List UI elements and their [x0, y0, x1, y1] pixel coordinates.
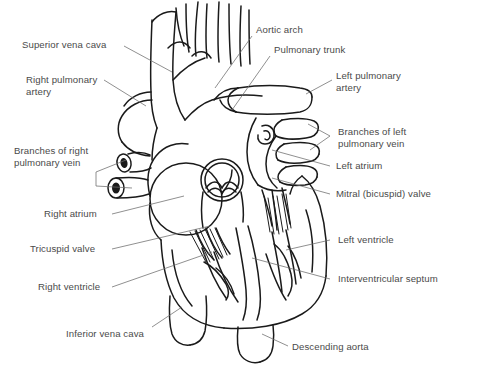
label-branches-left-pulmonary-vein-line1: Branches of left	[338, 126, 406, 137]
interventricular-septum-outline	[236, 226, 260, 320]
leader-left-atrium	[272, 150, 330, 166]
leader-aortic-arch	[215, 36, 252, 88]
descending-aorta-outline	[237, 325, 273, 363]
label-mitral-bicuspid-valve: Mitral (bicuspid) valve	[336, 188, 431, 200]
label-aortic-arch: Aortic arch	[256, 24, 303, 36]
leader-branches-left-pulmonary-vein-lower	[310, 136, 330, 150]
label-superior-vena-cava: Superior vena cava	[22, 39, 106, 51]
leader-mitral-valve	[272, 178, 330, 194]
label-descending-aorta: Descending aorta	[292, 341, 369, 353]
left-atrium-outline	[247, 118, 286, 191]
pulmonary-trunk-outline	[220, 86, 312, 115]
label-tricuspid-valve: Tricuspid valve	[30, 243, 95, 255]
label-left-pulmonary-artery-line1: Left pulmonary	[336, 70, 401, 81]
label-right-pulmonary-artery: Right pulmonaryartery	[26, 74, 97, 97]
leader-right-atrium	[112, 196, 184, 214]
left-ventricle-chamber	[266, 230, 301, 300]
label-right-pulmonary-artery-line1: Right pulmonary	[26, 74, 97, 85]
label-right-atrium: Right atrium	[44, 208, 97, 220]
label-left-ventricle: Left ventricle	[338, 234, 394, 246]
leader-pulmonary-trunk	[232, 56, 270, 110]
label-branches-right-pulmonary-vein-line2: pulmonary vein	[14, 157, 80, 168]
heart-diagram-illustration	[0, 0, 478, 374]
leader-left-ventricle	[286, 240, 330, 250]
label-right-pulmonary-artery-line2: artery	[26, 86, 51, 97]
leader-left-pulmonary-artery	[306, 80, 332, 94]
leader-descending-aorta	[262, 334, 288, 346]
heart-anatomy-figure: Superior vena cava Right pulmonaryartery…	[0, 0, 478, 374]
label-branches-left-pulmonary-vein-line2: pulmonary vein	[338, 138, 404, 149]
label-branches-of-right-pulmonary-vein: Branches of rightpulmonary vein	[14, 145, 88, 168]
figure-caption	[0, 369, 478, 374]
label-left-atrium: Left atrium	[336, 160, 382, 172]
label-right-ventricle: Right ventricle	[38, 281, 100, 293]
leader-lines	[96, 36, 332, 346]
right-pulmonary-vein-stubs	[108, 153, 151, 198]
left-pulmonary-vessel-stubs	[274, 119, 319, 186]
right-pulmonary-artery-outline	[118, 92, 152, 156]
label-pulmonary-trunk: Pulmonary trunk	[274, 44, 345, 56]
label-branches-right-pulmonary-vein-line1: Branches of right	[14, 145, 88, 156]
inferior-vena-cava-outline	[169, 296, 206, 345]
right-atrium-outline	[148, 144, 232, 241]
label-left-pulmonary-artery-line2: artery	[336, 82, 361, 93]
label-inferior-vena-cava: Inferior vena cava	[66, 328, 144, 340]
label-branches-of-left-pulmonary-vein: Branches of leftpulmonary vein	[338, 126, 406, 149]
leader-branches-left-pulmonary-vein-upper	[308, 124, 330, 136]
label-interventricular-septum: Interventricular septum	[338, 273, 438, 285]
label-left-pulmonary-artery: Left pulmonaryartery	[336, 70, 401, 93]
leader-superior-vena-cava	[124, 46, 172, 72]
leader-inferior-vena-cava	[152, 307, 182, 327]
heart-outer-wall-outline	[161, 176, 327, 328]
leader-right-pulmonary-artery	[104, 80, 146, 106]
aortic-arch-outline	[152, 11, 262, 120]
